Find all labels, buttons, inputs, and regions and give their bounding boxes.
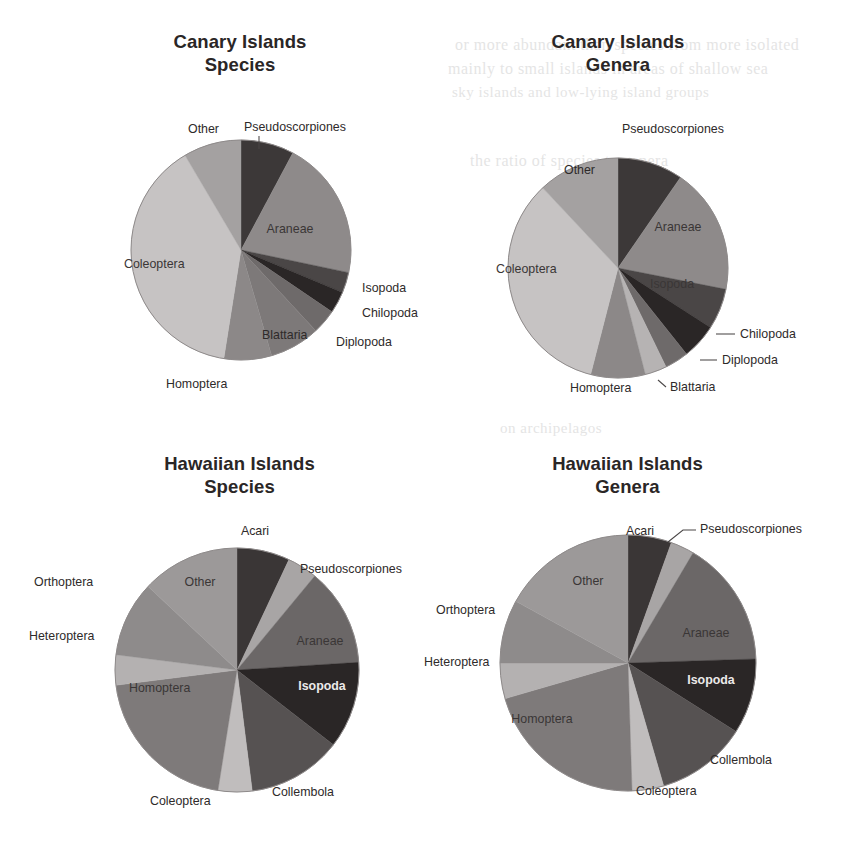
slice-label: Pseudoscorpiones (300, 562, 402, 576)
slice-label: Acari (241, 524, 269, 538)
slice-label: Isopoda (362, 281, 406, 295)
chart-title-hawaiian-genera: Hawaiian Islands Genera (520, 452, 735, 498)
pie-slice[interactable] (116, 670, 237, 791)
slice-label: Pseudoscorpiones (622, 122, 724, 136)
slice-label: Collembola (272, 785, 334, 799)
slice-label: Diplopoda (336, 335, 392, 349)
pie-chart-hawaiian-genera: AcariPseudoscorpionesAraneaeIsopodaColle… (0, 0, 842, 856)
slice-label: Orthoptera (34, 575, 93, 589)
slice-label: Blattaria (670, 380, 716, 394)
chart-title-canary-genera: Canary Islands Genera (518, 30, 718, 76)
bleedthrough-line: on archipelagos (500, 420, 602, 437)
slice-label: Coleoptera (150, 794, 211, 808)
slice-label: Pseudoscorpiones (700, 522, 802, 536)
slice-label: Other (188, 122, 219, 136)
slice-label: Heteroptera (424, 655, 490, 669)
bleedthrough-line: sky islands and low-lying island groups (452, 84, 709, 101)
slice-label: Diplopoda (722, 353, 778, 367)
slice-label: Collembola (710, 753, 772, 767)
slice-label: Chilopoda (740, 327, 796, 341)
chart-title-canary-species: Canary Islands Species (140, 30, 340, 76)
label-leader-line (658, 380, 666, 387)
slice-label: Heteroptera (29, 629, 95, 643)
label-leader-line (668, 530, 696, 542)
slice-label: Chilopoda (362, 306, 418, 320)
chart-title-hawaiian-species: Hawaiian Islands Species (132, 452, 347, 498)
slice-label: Homoptera (166, 377, 227, 391)
slice-label: Homoptera (570, 381, 631, 395)
slice-label: Pseudoscorpiones (244, 120, 346, 134)
slice-label: Orthoptera (436, 603, 495, 617)
